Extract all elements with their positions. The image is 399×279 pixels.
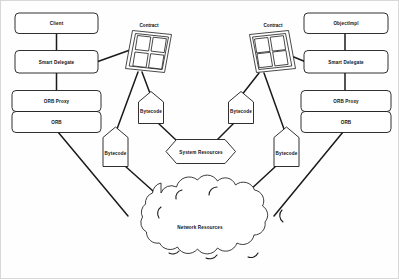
right-smart-delegate-box-shape: [304, 51, 388, 74]
architecture-diagram: .bx{fill:#ffffff;stroke:#1a1a1a;stroke-w…: [0, 0, 399, 279]
left-orb-box-shape: [12, 112, 101, 133]
left-stack-shapes: [12, 13, 101, 133]
bytecode-shape-upper-left: [139, 92, 164, 124]
left-orb-proxy-box-shape: [12, 91, 101, 112]
left-smart-delegate-box-shape: [15, 51, 98, 74]
right-orb-box-shape: [301, 112, 391, 133]
bytecode-shape-lower-left: [103, 127, 128, 167]
diagram-canvas: .bx{fill:#ffffff;stroke:#1a1a1a;stroke-w…: [1, 1, 399, 279]
client-box-shape: [15, 13, 98, 34]
bytecode-shape-upper-right: [229, 92, 254, 124]
left-contract-shape: [126, 31, 172, 73]
left-contract-label: Contract: [140, 23, 159, 28]
right-contract-shape: [250, 31, 296, 73]
network-resources-cloud-shape: [141, 175, 283, 259]
right-orb-proxy-box-shape: [301, 91, 391, 112]
right-contract-label: Contract: [264, 23, 283, 28]
bytecode-shape-lower-right: [274, 127, 299, 167]
right-stack-shapes: [301, 13, 391, 133]
object-impl-box-shape: [304, 13, 388, 34]
system-resources-shape: [166, 140, 236, 164]
